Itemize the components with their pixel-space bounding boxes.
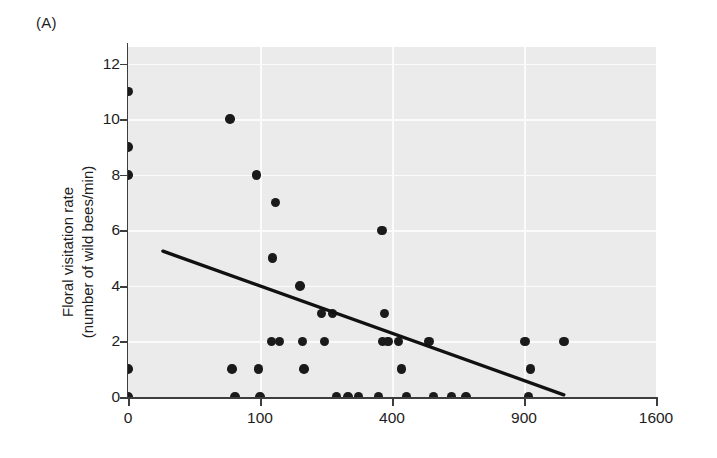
y-axis-title-line-1: Floral visitation rate bbox=[59, 187, 76, 317]
x-tick-mark bbox=[524, 398, 526, 406]
figure-panel-a: (A) Floral visitation rate (number of wi… bbox=[0, 0, 717, 458]
y-axis-spine bbox=[127, 43, 129, 397]
y-tick-mark bbox=[120, 286, 128, 288]
x-tick-label: 100 bbox=[247, 409, 273, 427]
y-tick-mark bbox=[120, 119, 128, 121]
y-tick-mark bbox=[120, 341, 128, 343]
x-tick-label: 1600 bbox=[639, 409, 673, 427]
y-tick-label: 12 bbox=[103, 55, 120, 73]
x-tick-label: 400 bbox=[379, 409, 405, 427]
x-tick-label: 0 bbox=[124, 409, 133, 427]
y-tick-mark bbox=[120, 397, 128, 399]
y-tick-mark bbox=[120, 175, 128, 177]
x-tick-mark bbox=[656, 398, 658, 406]
y-tick-label: 10 bbox=[103, 110, 120, 128]
y-tick-mark bbox=[120, 64, 128, 66]
y-tick-label: 2 bbox=[111, 332, 120, 350]
x-tick-mark bbox=[128, 398, 130, 406]
y-tick-label: 0 bbox=[111, 388, 120, 406]
y-tick-label: 8 bbox=[111, 166, 120, 184]
chart-panel bbox=[128, 47, 656, 397]
trend-line-layer bbox=[128, 47, 656, 397]
plot-area: 024681012 01004009001600 bbox=[128, 47, 656, 397]
x-tick-label: 900 bbox=[511, 409, 537, 427]
y-axis-title: Floral visitation rate (number of wild b… bbox=[58, 102, 98, 402]
y-tick-label: 6 bbox=[111, 221, 120, 239]
y-tick-label: 4 bbox=[111, 277, 120, 295]
y-tick-mark bbox=[120, 230, 128, 232]
x-tick-mark bbox=[392, 398, 394, 406]
y-axis-title-line-2: (number of wild bees/min) bbox=[78, 102, 98, 402]
x-tick-mark bbox=[260, 398, 262, 406]
trend-line bbox=[163, 251, 564, 395]
panel-label: (A) bbox=[36, 14, 57, 31]
